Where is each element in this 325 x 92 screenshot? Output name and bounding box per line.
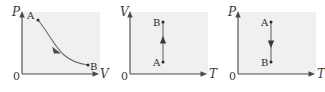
- origin-label: 0: [229, 71, 236, 82]
- panel-pt-diagram: P T 0 A B: [216, 0, 324, 92]
- origin-label: 0: [13, 71, 20, 82]
- y-axis-label: P: [12, 6, 20, 18]
- point-a-label: A: [261, 18, 268, 28]
- point-b-marker: [162, 21, 165, 24]
- point-b-marker: [270, 61, 273, 64]
- point-b-label: B: [153, 18, 160, 28]
- panel-background: [238, 12, 316, 74]
- x-axis-label: T: [317, 68, 325, 80]
- panel-vt-diagram: V T 0 A B: [108, 0, 216, 92]
- panel-pv-diagram: P V 0 A B: [0, 0, 108, 92]
- point-a-label: A: [153, 58, 160, 68]
- origin-label: 0: [121, 71, 128, 82]
- point-b-label: B: [90, 62, 97, 72]
- point-a-marker: [270, 21, 273, 24]
- y-axis-label: P: [228, 6, 236, 18]
- point-a-label: A: [27, 11, 34, 21]
- point-a-marker: [162, 61, 165, 64]
- panel-background: [130, 12, 208, 74]
- y-axis-label: V: [120, 6, 129, 18]
- point-b-label: B: [261, 58, 268, 68]
- point-a-marker: [37, 19, 40, 22]
